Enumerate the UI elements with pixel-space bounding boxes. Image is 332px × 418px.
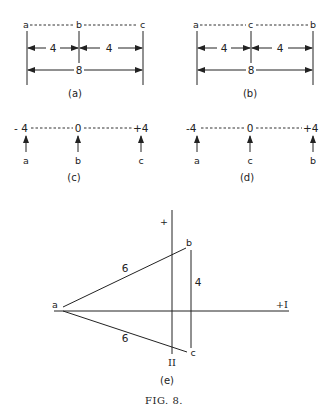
scale-plus-4: +4 bbox=[133, 122, 149, 134]
point-a-label: a bbox=[194, 155, 200, 166]
length-ac-label: 6 bbox=[122, 332, 129, 344]
figure-caption: FIG. 8. bbox=[145, 395, 183, 406]
scale-plus-4: +4 bbox=[303, 122, 319, 134]
length-bc-label: 4 bbox=[195, 276, 202, 288]
point-b-label: b bbox=[310, 155, 316, 166]
line-ab bbox=[63, 248, 186, 307]
segment-ac-length: 8 bbox=[76, 64, 83, 76]
point-c-label: c bbox=[247, 155, 252, 166]
panel-e: + II +I a b 6 c 6 4 (e) bbox=[52, 210, 289, 386]
axis-ii-label: II bbox=[168, 357, 176, 368]
scale-zero: 0 bbox=[75, 122, 82, 134]
panel-e-caption: (e) bbox=[160, 375, 174, 386]
figure-8-diagram: a b c 4 4 8 (a) a c b 4 4 bbox=[0, 0, 332, 418]
scale-zero: 0 bbox=[247, 122, 254, 134]
axis-i-label: +I bbox=[276, 299, 288, 310]
segment-bc-length: 4 bbox=[106, 42, 113, 54]
panel-c-caption: (c) bbox=[67, 172, 80, 183]
panel-d: -4 0 +4 a c b (d) bbox=[186, 122, 319, 183]
point-c-label: c bbox=[248, 19, 253, 30]
panel-b-caption: (b) bbox=[243, 88, 257, 99]
point-c-label: c bbox=[190, 347, 195, 358]
point-b-label: b bbox=[186, 237, 192, 248]
panel-d-caption: (d) bbox=[240, 172, 254, 183]
point-a-label: a bbox=[193, 19, 199, 30]
point-a-label: a bbox=[23, 19, 29, 30]
segment-ab-length: 8 bbox=[248, 64, 255, 76]
panel-b: a c b 4 4 8 (b) bbox=[193, 19, 316, 99]
point-a-label: a bbox=[52, 299, 58, 310]
scale-minus-4: - 4 bbox=[14, 122, 28, 134]
point-b-label: b bbox=[76, 19, 82, 30]
length-ab-label: 6 bbox=[122, 262, 129, 274]
point-a-label: a bbox=[23, 155, 29, 166]
segment-cb-length: 4 bbox=[277, 42, 284, 54]
point-b-label: b bbox=[310, 19, 316, 30]
panel-a: a b c 4 4 8 (a) bbox=[23, 19, 145, 99]
segment-ac-length: 4 bbox=[221, 42, 228, 54]
point-c-label: c bbox=[138, 155, 143, 166]
panel-c: - 4 0 +4 a b c (c) bbox=[14, 122, 149, 183]
scale-minus-4: -4 bbox=[186, 122, 197, 134]
point-b-label: b bbox=[75, 155, 81, 166]
segment-ab-length: 4 bbox=[50, 42, 57, 54]
point-c-label: c bbox=[140, 19, 145, 30]
axis-ii-plus-label: + bbox=[160, 216, 168, 227]
panel-a-caption: (a) bbox=[68, 88, 82, 99]
